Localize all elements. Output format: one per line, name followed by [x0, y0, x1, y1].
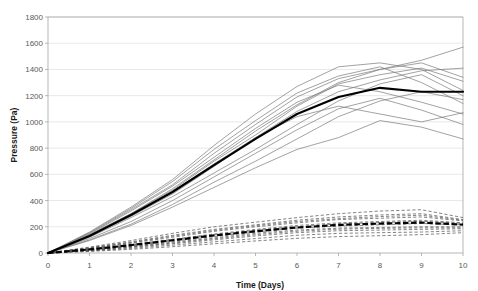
y-tick-label-0: 0 [39, 249, 44, 258]
x-tick-label-6: 6 [295, 261, 300, 270]
x-axis-title: Time (Days) [236, 280, 284, 290]
x-tick-label-4: 4 [212, 261, 217, 270]
y-tick-label-1400: 1400 [25, 65, 43, 74]
x-tick-label-7: 7 [336, 261, 341, 270]
pressure-vs-time-line-chart: 020040060080010001200140016001800 012345… [0, 0, 478, 291]
y-tick-label-800: 800 [30, 144, 44, 153]
y-tick-label-1800: 1800 [25, 13, 43, 22]
y-tick-label-400: 400 [30, 197, 44, 206]
x-tick-label-2: 2 [129, 261, 134, 270]
x-tick-label-9: 9 [419, 261, 424, 270]
x-tick-label-0: 0 [46, 261, 51, 270]
x-tick-label-10: 10 [459, 261, 468, 270]
x-tick-label-1: 1 [87, 261, 92, 270]
y-tick-label-1600: 1600 [25, 39, 43, 48]
y-axis-title: Pressure (Pa) [9, 107, 19, 162]
x-tick-label-3: 3 [170, 261, 175, 270]
y-tick-label-600: 600 [30, 170, 44, 179]
y-tick-label-200: 200 [30, 223, 44, 232]
y-tick-label-1200: 1200 [25, 92, 43, 101]
x-tick-label-5: 5 [253, 261, 258, 270]
chart-container: 020040060080010001200140016001800 012345… [0, 0, 478, 291]
y-tick-label-1000: 1000 [25, 118, 43, 127]
x-tick-label-8: 8 [378, 261, 383, 270]
